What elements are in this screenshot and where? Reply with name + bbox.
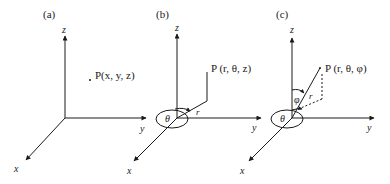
x-axis-label: x xyxy=(126,165,132,176)
point-p-label: P(x, y, z) xyxy=(95,69,135,82)
radius-label: r xyxy=(309,91,313,101)
point-p-label: P (r, θ, φ) xyxy=(325,62,367,75)
phi-label: φ xyxy=(294,94,300,105)
z-axis-label: z xyxy=(174,22,179,33)
point-p xyxy=(319,67,321,69)
panel-b-cylindrical: (b) z y x P (r, θ, z) θ r xyxy=(126,8,261,176)
point-p-label: P (r, θ, z) xyxy=(211,62,251,75)
panel-b-label: (b) xyxy=(156,8,169,21)
x-axis-label: x xyxy=(239,165,245,176)
z-axis-label: z xyxy=(61,24,66,35)
theta-arc xyxy=(271,110,303,128)
y-axis-label: y xyxy=(366,122,372,133)
theta-label: θ xyxy=(280,113,285,124)
y-axis-label: y xyxy=(139,123,145,134)
y-axis-label: y xyxy=(251,122,257,133)
theta-label: θ xyxy=(165,113,170,124)
phi-arc xyxy=(292,89,304,93)
x-axis-label: x xyxy=(13,163,19,174)
theta-arc xyxy=(156,110,188,128)
radius-line xyxy=(177,101,207,118)
point-p xyxy=(89,79,91,81)
panel-a-cartesian: (a) z y x P(x, y, z) xyxy=(13,8,146,174)
panel-c-label: (c) xyxy=(276,8,289,21)
panel-a-label: (a) xyxy=(43,8,56,21)
radius-line xyxy=(292,68,320,118)
radius-label: r xyxy=(196,107,200,117)
z-axis-label: z xyxy=(289,24,294,35)
coordinate-systems-diagram: (a) z y x P(x, y, z) (b) z y x P (r, θ, … xyxy=(0,0,390,184)
panel-c-spherical: (c) z y x P (r, θ, φ) φ r θ xyxy=(239,8,374,176)
x-axis xyxy=(26,118,65,160)
